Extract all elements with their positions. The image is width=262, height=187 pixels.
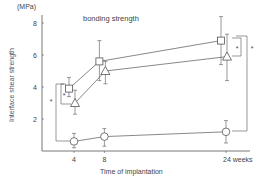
circle-marker <box>101 133 109 141</box>
circle-marker-line <box>74 132 226 142</box>
x-tick-label: 8 <box>102 156 106 163</box>
y-tick-label: 4 <box>33 84 37 91</box>
y-unit-label: (MPa) <box>17 3 36 10</box>
y-tick-label: 6 <box>33 52 37 59</box>
circle-marker <box>70 138 78 146</box>
significance-star: * <box>251 45 254 52</box>
chart-plot: 24684824 weeks**** <box>0 0 262 187</box>
y-axis-label: Interface shear strength <box>8 48 15 122</box>
square-marker-line <box>69 41 221 89</box>
significance-star: * <box>63 92 66 99</box>
square-marker <box>96 58 103 65</box>
chart-title: bonding strength <box>83 14 139 23</box>
significance-bracket <box>232 36 247 131</box>
square-marker <box>218 37 225 44</box>
x-tick-label: 4 <box>72 156 76 163</box>
square-marker <box>66 85 73 92</box>
y-tick-label: 8 <box>33 20 37 27</box>
significance-star: * <box>236 45 239 52</box>
x-tick-label: 24 weeks <box>223 156 253 163</box>
x-axis-label: Time of implantation <box>100 168 163 175</box>
y-tick-label: 2 <box>33 116 37 123</box>
circle-marker <box>222 128 230 136</box>
triangle-marker <box>223 52 232 60</box>
significance-star: * <box>50 98 53 105</box>
